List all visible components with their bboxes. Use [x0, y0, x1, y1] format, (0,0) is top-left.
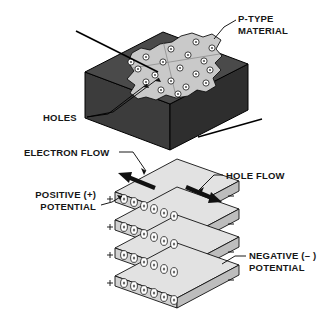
layered-crystal-stack	[107, 159, 239, 308]
label-electron-flow: ELECTRON FLOW	[24, 147, 109, 158]
semiconductor-p-type-diagram: P-TYPE MATERIAL HOLES ELECTRON FLOW HOLE…	[0, 0, 323, 323]
label-p-type-line2: MATERIAL	[238, 25, 288, 36]
label-hole-flow: HOLE FLOW	[226, 170, 285, 181]
diagram-canvas: P-TYPE MATERIAL HOLES ELECTRON FLOW HOLE…	[0, 0, 323, 323]
label-negative-line1: NEGATIVE (– )	[249, 250, 316, 261]
label-p-type-line1: P-TYPE	[238, 13, 274, 24]
positive-polarity-marks	[107, 196, 113, 286]
label-negative-line2: POTENTIAL	[249, 262, 305, 273]
leader-p-type	[214, 20, 236, 39]
label-holes: HOLES	[43, 112, 77, 123]
leader-electron-flow	[119, 152, 146, 171]
p-type-material-block	[85, 25, 248, 150]
label-positive-line2: POTENTIAL	[40, 201, 96, 212]
label-positive-line1: POSITIVE (+)	[35, 189, 96, 200]
